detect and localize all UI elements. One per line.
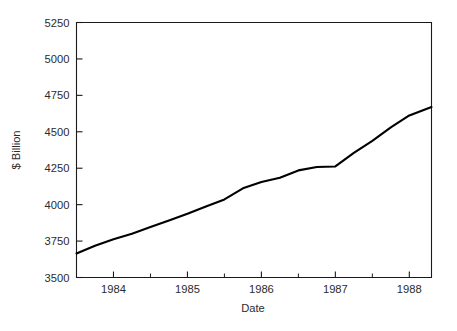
- y-tick-label-4750: 4750: [45, 89, 70, 101]
- x-tick-label-1987: 1987: [323, 283, 348, 295]
- y-tick-label-3500: 3500: [45, 272, 70, 284]
- y-axis-ticks: [77, 23, 83, 278]
- x-axis-tick-labels: 19841985198619871988: [101, 283, 422, 295]
- x-tick-label-1986: 1986: [249, 283, 274, 295]
- x-tick-label-1984: 1984: [101, 283, 126, 295]
- chart-figure: 35003750400042504500475050005250 1984198…: [0, 0, 457, 331]
- x-tick-label-1988: 1988: [397, 283, 422, 295]
- y-tick-label-4250: 4250: [45, 162, 70, 174]
- x-tick-label-1985: 1985: [175, 283, 200, 295]
- y-tick-label-4000: 4000: [45, 199, 70, 211]
- y-axis-tick-labels: 35003750400042504500475050005250: [45, 17, 70, 284]
- x-axis-title: Date: [241, 302, 265, 314]
- data-series-line: [77, 107, 432, 253]
- y-tick-label-4500: 4500: [45, 126, 70, 138]
- y-axis-title: $ Billion: [10, 130, 22, 169]
- chart-canvas: 35003750400042504500475050005250 1984198…: [0, 0, 457, 331]
- y-tick-label-5000: 5000: [45, 53, 70, 65]
- plot-frame: [77, 23, 432, 278]
- y-tick-label-5250: 5250: [45, 17, 70, 29]
- x-axis-ticks: [113, 272, 409, 278]
- y-tick-label-3750: 3750: [45, 235, 70, 247]
